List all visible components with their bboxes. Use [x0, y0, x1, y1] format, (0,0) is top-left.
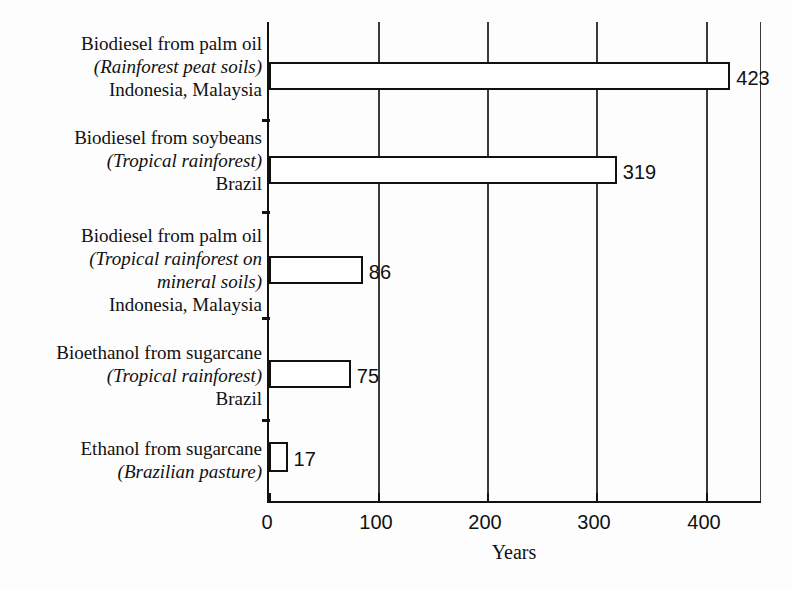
- bar-2[interactable]: [269, 256, 363, 284]
- category-label-1-line-0: Biodiesel from soybeans: [74, 126, 262, 149]
- x-axis-title: Years: [267, 541, 761, 564]
- xticklabel-200: 200: [468, 511, 501, 534]
- gridline-200: [487, 22, 489, 501]
- xticklabel-100: 100: [359, 511, 392, 534]
- category-label-0-line-0: Biodiesel from palm oil: [81, 32, 262, 55]
- plot-area: 423 319 86 75 17: [267, 22, 761, 503]
- category-label-2-line-3: Indonesia, Malaysia: [81, 293, 262, 316]
- bar-0[interactable]: [269, 62, 730, 90]
- xtick-200: [487, 493, 489, 502]
- xtick-100: [378, 493, 380, 502]
- bar-3[interactable]: [269, 360, 351, 388]
- xticklabel-0: 0: [261, 511, 272, 534]
- category-label-1-line-2: Brazil: [74, 172, 262, 195]
- ytick-group-2: [262, 211, 270, 214]
- category-label-1: Biodiesel from soybeans(Tropical rainfor…: [74, 126, 262, 195]
- plot-right-edge: [760, 22, 762, 501]
- category-label-2: Biodiesel from palm oil(Tropical rainfor…: [81, 224, 262, 316]
- bar-1[interactable]: [269, 156, 617, 184]
- ytick-group-1: [262, 119, 270, 122]
- category-label-3-line-2: Brazil: [56, 387, 262, 410]
- category-label-0-line-1: (Rainforest peat soils): [81, 55, 262, 78]
- ytick-group-4: [262, 419, 270, 422]
- category-label-2-line-1: (Tropical rainforest on: [81, 247, 262, 270]
- xtick-0: [269, 493, 271, 502]
- xticklabel-300: 300: [577, 511, 610, 534]
- category-label-1-line-1: (Tropical rainforest): [74, 149, 262, 172]
- category-label-2-line-0: Biodiesel from palm oil: [81, 224, 262, 247]
- ytick-group-3: [262, 317, 270, 320]
- bar-chart: Biodiesel from palm oil(Rainforest peat …: [0, 0, 792, 589]
- bar-value-1: 319: [623, 162, 656, 182]
- category-label-0-line-2: Indonesia, Malaysia: [81, 78, 262, 101]
- gridline-300: [596, 22, 598, 501]
- category-label-2-line-2: mineral soils): [81, 270, 262, 293]
- category-label-4: Ethanol from sugarcane(Brazilian pasture…: [81, 437, 262, 483]
- category-label-3-line-0: Bioethanol from sugarcane: [56, 341, 262, 364]
- category-label-4-line-1: (Brazilian pasture): [81, 460, 262, 483]
- bar-value-3: 75: [357, 366, 379, 386]
- bar-value-4: 17: [294, 449, 316, 469]
- xtick-400: [706, 493, 708, 502]
- category-label-4-line-0: Ethanol from sugarcane: [81, 437, 262, 460]
- xtick-300: [596, 493, 598, 502]
- category-label-0: Biodiesel from palm oil(Rainforest peat …: [81, 32, 262, 101]
- bar-4[interactable]: [269, 442, 288, 472]
- category-label-3-line-1: (Tropical rainforest): [56, 364, 262, 387]
- bar-value-0: 423: [736, 68, 769, 88]
- xticklabel-400: 400: [687, 511, 720, 534]
- bar-value-2: 86: [369, 262, 391, 282]
- gridline-400: [706, 22, 708, 501]
- category-label-3: Bioethanol from sugarcane(Tropical rainf…: [56, 341, 262, 410]
